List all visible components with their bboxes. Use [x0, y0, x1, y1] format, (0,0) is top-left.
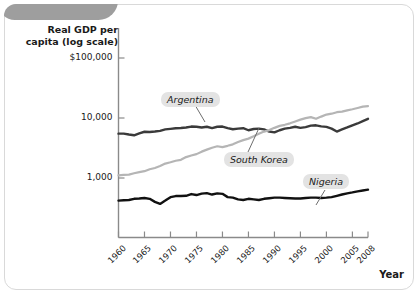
y-tick-label: $100,000	[47, 52, 113, 62]
series-label-argentina: Argentina	[161, 92, 220, 107]
series-label-nigeria: Nigeria	[303, 174, 349, 189]
axis-lines	[119, 28, 369, 238]
y-tick-marks	[119, 58, 125, 178]
figure-container: Real GDP per capita (log scale) Year $10…	[0, 0, 420, 297]
series-label-south-korea: South Korea	[224, 152, 294, 167]
y-tick-label: 10,000	[47, 112, 113, 122]
x-tick-marks	[119, 232, 369, 238]
y-tick-label: 1,000	[47, 172, 113, 182]
series-line-nigeria	[119, 190, 369, 204]
series-line-argentina	[119, 119, 369, 135]
